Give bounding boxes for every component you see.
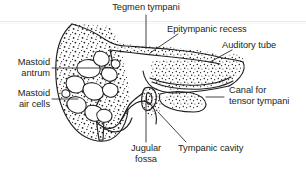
- label-mastoid-air-cells-line1: Mastoid: [0, 88, 50, 99]
- label-jugular-fossa-line2: fossa: [116, 154, 176, 165]
- leader-tympanic-cavity: [158, 112, 186, 142]
- label-tympanic-cavity: Tympanic cavity: [178, 143, 278, 154]
- label-mastoid-antrum-line2: antrum: [0, 68, 50, 79]
- label-mastoid-antrum-line1: Mastoid: [0, 57, 50, 68]
- scan-artifact-line: [0, 22, 306, 24]
- anatomical-figure: Tegmen tympani Epitympanic recess Audito…: [0, 0, 306, 184]
- label-tegmen-tympani: Tegmen tympani: [96, 2, 196, 13]
- label-mastoid-air-cells-line2: air cells: [0, 99, 50, 110]
- label-canal-for-tensor-tympani-line1: Canal for: [229, 85, 306, 96]
- label-canal-for-tensor-tympani-line2: tensor tympani: [229, 96, 306, 107]
- label-jugular-fossa-line1: Jugular: [116, 143, 176, 154]
- label-epitympanic-recess: Epitympanic recess: [167, 24, 287, 35]
- label-auditory-tube: Auditory tube: [222, 40, 306, 51]
